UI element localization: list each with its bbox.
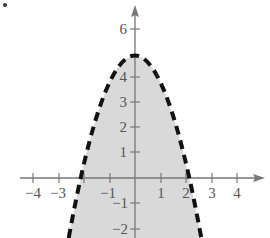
parabola-graph: −4 −3 −1 1 2 3 4 6 4 3 2 1 −1 −2 — [0, 0, 270, 238]
x-label--4: −4 — [25, 185, 41, 201]
y-label-3: 3 — [120, 94, 128, 110]
y-label--2: −2 — [112, 221, 128, 237]
x-label-1: 1 — [157, 185, 165, 201]
bullet-dot — [3, 3, 7, 7]
x-label-2: 2 — [182, 185, 190, 201]
x-label-3: 3 — [208, 185, 216, 201]
y-label-2: 2 — [120, 119, 128, 135]
y-label-1: 1 — [120, 144, 128, 160]
y-label--1: −1 — [112, 195, 128, 211]
x-label--3: −3 — [50, 185, 66, 201]
x-label-4: 4 — [233, 185, 241, 201]
y-label-6: 6 — [120, 21, 128, 37]
y-label-4: 4 — [120, 69, 128, 85]
